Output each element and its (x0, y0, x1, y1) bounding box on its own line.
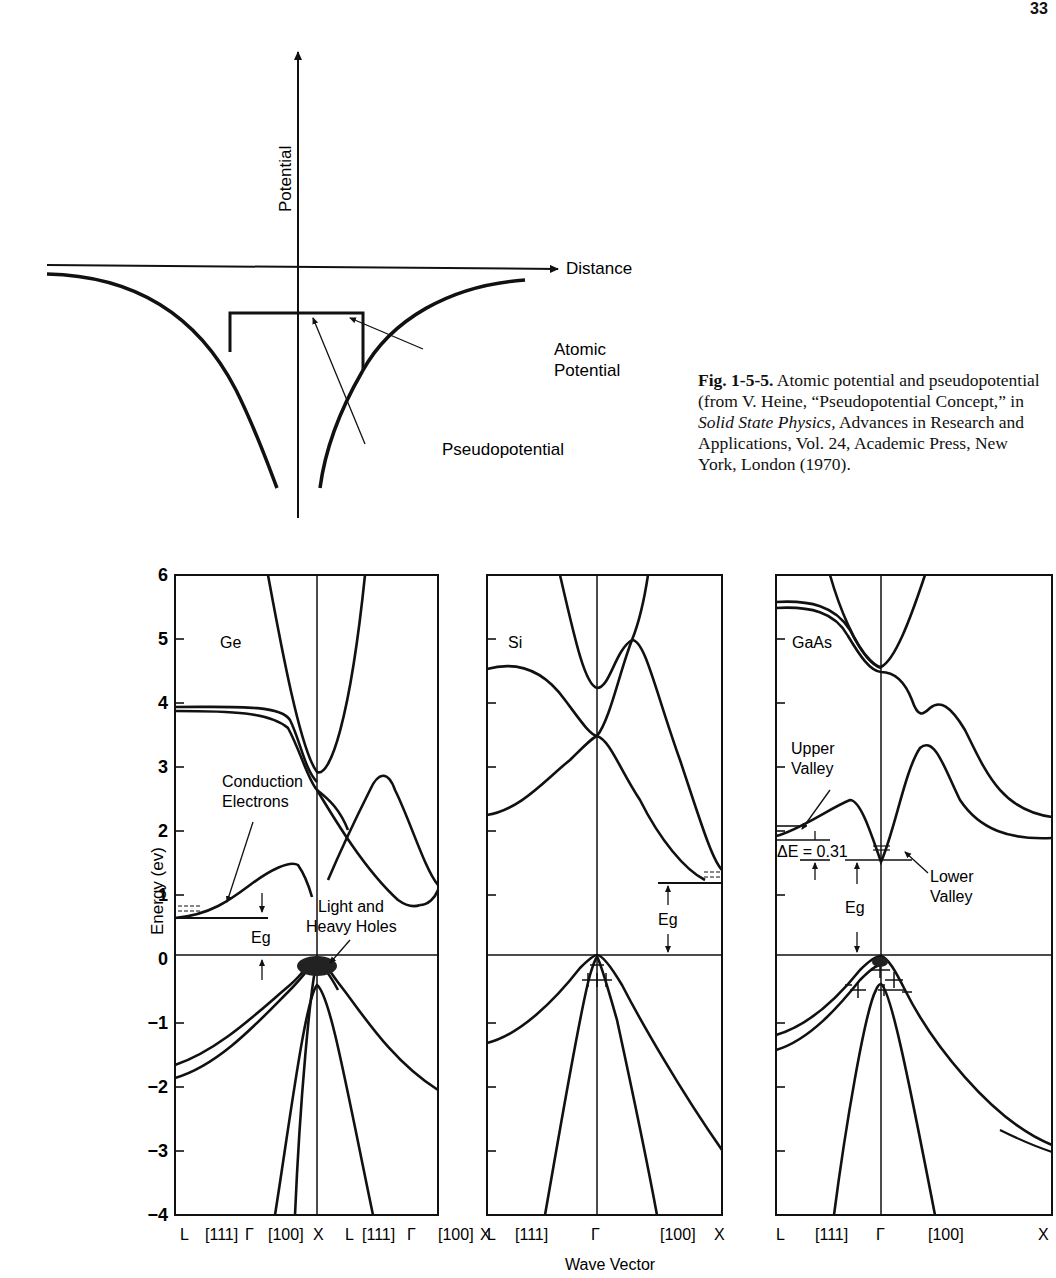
x-tick: X (1038, 1226, 1049, 1243)
distance-axis (47, 265, 558, 269)
atomic-label-2: Potential (554, 361, 620, 380)
x-tick: [100] (928, 1226, 964, 1243)
y-tick: −1 (147, 1013, 168, 1033)
ge-eg-label: Eg (251, 929, 271, 946)
caption-fig-label: Fig. 1-5-5. (698, 370, 773, 390)
x-tick: Γ (591, 1226, 600, 1243)
ge-conduction-label-1: Conduction (222, 773, 303, 790)
ge-label: Ge (220, 634, 241, 651)
pseudo-label: Pseudopotential (442, 440, 564, 459)
x-tick: L (776, 1226, 785, 1243)
y-tick: −4 (147, 1205, 168, 1225)
si-label: Si (508, 634, 522, 651)
atomic-pointer-arrow (350, 318, 423, 349)
gaas-upper-valley-2: Valley (791, 760, 833, 777)
ge-conduction-label-2: Electrons (222, 793, 289, 810)
x-tick: [100] (438, 1226, 474, 1243)
x-tick: [111] (515, 1226, 548, 1243)
atomic-label-1: Atomic (554, 340, 606, 359)
y-tick: 3 (158, 757, 168, 777)
x-tick: [111] (205, 1226, 238, 1243)
x-tick: [111] (362, 1226, 395, 1243)
y-tick: 2 (158, 821, 168, 841)
x-axis-ticks-panels: L [111] Γ [100] X L [111] Γ [100] X (487, 1226, 1049, 1243)
wave-vector-label: Wave Vector (565, 1256, 656, 1273)
y-tick: −2 (147, 1077, 168, 1097)
gaas-panel (776, 575, 1052, 1215)
gaas-lower-valley-2: Valley (930, 888, 972, 905)
x-tick: X (714, 1226, 725, 1243)
ge-holes-label-1: Light and (318, 898, 384, 915)
x-tick: Γ (876, 1226, 885, 1243)
figure-caption: Fig. 1-5-5. Atomic potential and pseudop… (698, 370, 1048, 475)
y-tick: 6 (158, 565, 168, 585)
gaas-lower-valley-1: Lower (930, 868, 974, 885)
x-tick: [100] (660, 1226, 696, 1243)
pseudopotential-well (230, 313, 363, 370)
x-tick: [100] (268, 1226, 304, 1243)
gaas-upper-valley-1: Upper (791, 740, 835, 757)
caption-italic: Solid State Physics, (698, 412, 836, 432)
figure-canvas: Potential Distance Atomic Potential Pseu… (0, 0, 1056, 1278)
ge-panel (175, 575, 438, 1215)
x-axis-ticks: L [111] Γ [100] X L [111] Γ [100] X (180, 1226, 491, 1243)
si-panel (487, 575, 722, 1215)
x-tick: L (345, 1226, 354, 1243)
atomic-potential-left (47, 274, 277, 488)
distance-axis-label: Distance (566, 259, 632, 278)
gaas-delta-e: ΔE = 0.31 (777, 843, 848, 860)
si-eg-label: Eg (658, 911, 678, 928)
gaas-label: GaAs (792, 634, 832, 651)
x-tick: [111] (815, 1226, 848, 1243)
x-tick: X (313, 1226, 324, 1243)
y-tick: 0 (158, 949, 168, 969)
x-tick: L (487, 1226, 496, 1243)
ge-holes-label-2: Heavy Holes (306, 918, 397, 935)
y-tick: −3 (147, 1141, 168, 1161)
y-tick: 4 (158, 693, 168, 713)
energy-axis-label: Energy (ev) (148, 847, 167, 935)
x-tick: Γ (245, 1226, 254, 1243)
gaas-eg-label: Eg (845, 899, 865, 916)
x-tick: Γ (407, 1226, 416, 1243)
potential-axis-label: Potential (276, 146, 295, 212)
x-tick: L (180, 1226, 189, 1243)
y-tick: 5 (158, 629, 168, 649)
